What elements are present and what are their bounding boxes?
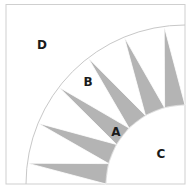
quilt-block-diagram: A B C D [0,0,192,192]
label-b: B [83,75,92,89]
label-d: D [37,38,47,52]
label-a: A [111,125,121,139]
label-c: C [157,147,166,161]
